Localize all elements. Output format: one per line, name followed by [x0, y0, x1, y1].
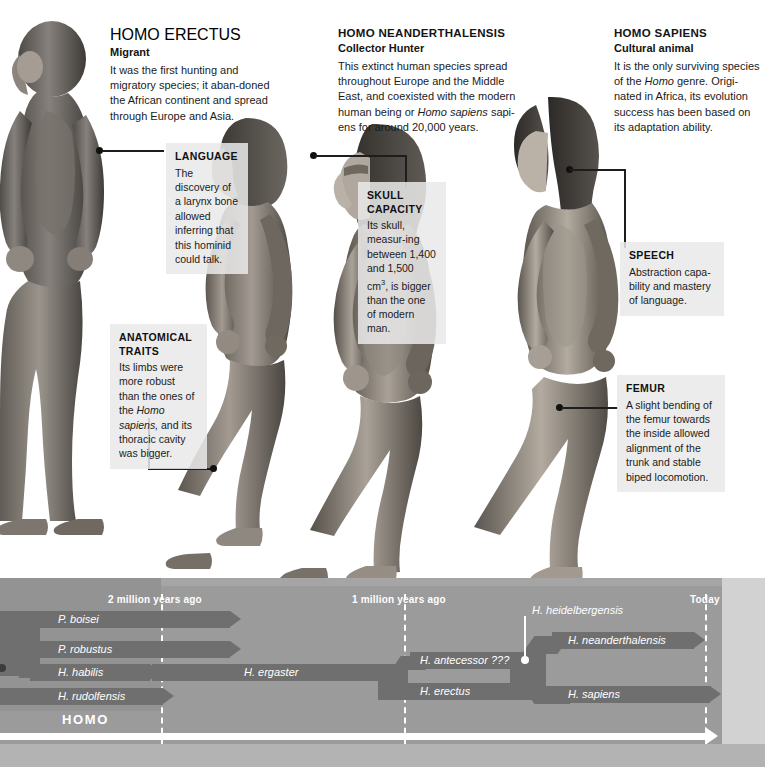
species-block-homo-erectus: HOMO ERECTUS Migrant It was the first hu… [110, 26, 270, 124]
leader-line-language [96, 146, 166, 158]
timeline-chart: 2 million years ago 1 million years ago … [0, 578, 722, 744]
species-block-homo-sapiens: HOMO SAPIENS Cultural animal It is the o… [614, 26, 762, 135]
timeline-bar-label: H. sapiens [568, 686, 620, 703]
timeline-axis-arrow [0, 733, 705, 740]
species-name: HOMO NEANDERTHALENSIS [338, 26, 520, 40]
timeline-bar-label: H. antecessor ??? [420, 652, 509, 669]
species-body: It is the only surviving species of the … [614, 59, 762, 135]
callout-femur: FEMUR A slight bending of the femur towa… [617, 375, 725, 492]
leader-dot [210, 465, 217, 472]
species-block-homo-neanderthalensis: HOMO NEANDERTHALENSIS Collector Hunter T… [338, 26, 520, 135]
callout-title: FEMUR [626, 382, 716, 396]
timeline-bar-label: P. robustus [58, 641, 112, 658]
timeline-node-label-heidelbergensis: H. heidelbergensis [532, 604, 623, 616]
callout-body: A slight bending of the femur towards th… [626, 398, 716, 484]
leader-line-femur [556, 403, 618, 415]
callout-title: ANATOMICAL TRAITS [119, 331, 198, 358]
timeline-right-margin [722, 578, 765, 744]
timeline-bar-label: H. ergaster [244, 664, 298, 681]
callout-body: Its limbs were more robust than the ones… [119, 360, 198, 461]
species-name: HOMO ERECTUS [110, 26, 270, 44]
timeline-group-label-homo: HOMO [62, 712, 109, 727]
timeline-gridline-today [705, 594, 707, 744]
timeline-bar-h-sapiens: H. sapiens [552, 686, 710, 703]
timeline-bar-h-erectus: H. erectus [398, 683, 516, 700]
timeline-bar-h-neanderthalensis: H. neanderthalensis [552, 632, 694, 649]
callout-body: Abstraction capa-bility and mastery of l… [629, 265, 715, 308]
callout-skull-capacity: SKULL CAPACITY Its skull, measur-ing bet… [358, 182, 446, 344]
species-body: This extinct human species spread throug… [338, 59, 520, 135]
timeline-tick-1mya: 1 million years ago [352, 594, 446, 605]
timeline-bar-label: P. boisei [58, 611, 99, 628]
leader-segment [102, 150, 164, 152]
callout-title: SPEECH [629, 249, 715, 263]
callout-speech: SPEECH Abstraction capa-bility and maste… [620, 242, 724, 316]
timeline-bar-label: H. rudolfensis [58, 688, 125, 705]
timeline-node-stem [524, 616, 526, 658]
callout-anatomical-traits: ANATOMICAL TRAITS Its limbs were more ro… [110, 324, 207, 469]
species-subtitle: Cultural animal [614, 41, 762, 56]
timeline-bar-h-habilis: H. habilis [30, 664, 150, 681]
callout-title: SKULL CAPACITY [367, 189, 437, 216]
timeline-bar-label: H. habilis [58, 664, 103, 681]
timeline-tick-2mya: 2 million years ago [108, 594, 202, 605]
species-subtitle: Migrant [110, 45, 270, 60]
callout-title: LANGUAGE [175, 150, 239, 164]
species-name: HOMO SAPIENS [614, 26, 762, 40]
timeline-bar-label: H. erectus [420, 683, 470, 700]
species-body: It was the first hunting and migratory s… [110, 63, 270, 124]
leader-segment [561, 407, 618, 409]
timeline-bar-h-antecessor: H. antecessor ??? [410, 652, 510, 669]
timeline-bottom-strip [0, 744, 765, 767]
leader-line-speech [566, 166, 628, 250]
leader-segment-h [570, 169, 626, 171]
leader-segment-v [624, 169, 626, 248]
callout-body: The discovery of a larynx bone allowed i… [175, 166, 239, 267]
infographic-canvas: HOMO ERECTUS Migrant It was the first hu… [0, 0, 765, 767]
callout-language: LANGUAGE The discovery of a larynx bone … [166, 143, 248, 274]
timeline-node-heidelbergensis [521, 656, 529, 664]
leader-segment-h [315, 155, 407, 157]
species-subtitle: Collector Hunter [338, 41, 520, 56]
callout-body: Its skull, measur-ing between 1,400 and … [367, 218, 437, 336]
timeline-bar-label: H. neanderthalensis [568, 632, 666, 649]
timeline-bar-h-ergaster: H. ergaster [152, 664, 384, 681]
timeline-bar-h-rudolfensis: H. rudolfensis [0, 688, 163, 705]
